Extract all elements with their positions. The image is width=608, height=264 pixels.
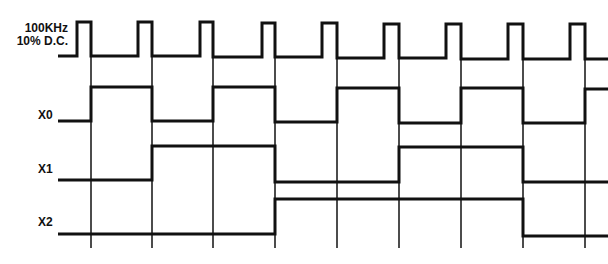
clock-duty-cycle-label: 10% D.C. [2, 35, 68, 48]
timing-diagram [0, 0, 608, 264]
clock-waveform [58, 22, 608, 59]
x1-label: X1 [38, 163, 53, 176]
clock-reference-lines [91, 56, 585, 248]
clock-label: 100KHz 10% D.C. [2, 22, 68, 48]
x2-waveform [58, 199, 608, 236]
x2-label: X2 [38, 216, 53, 229]
x0-label: X0 [38, 109, 53, 122]
x0-waveform [58, 87, 608, 123]
x1-waveform [58, 146, 608, 182]
